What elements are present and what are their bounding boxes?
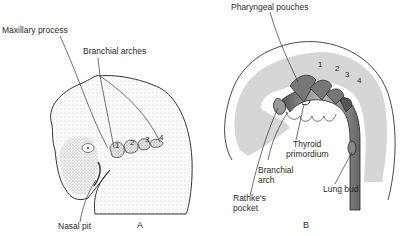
label-rathkes-line1: Rathke's	[233, 193, 266, 203]
leader-lung-bud	[335, 152, 352, 184]
pouch-number-2: 2	[335, 64, 339, 73]
pericardium-scallop	[286, 112, 336, 121]
arch-number-3: 3	[145, 135, 149, 144]
label-branchial-arch-line1: Branchial	[258, 165, 293, 175]
panel-b-section	[225, 12, 395, 210]
label-thyroid-line1: Thyroid	[293, 139, 321, 149]
lung-bud-shape	[348, 141, 356, 155]
label-maxillary-process: Maxillary process	[2, 25, 68, 35]
panel-letter-a: A	[137, 220, 143, 230]
panel-a-embryo	[51, 36, 193, 222]
label-thyroid-line2: primordium	[286, 149, 329, 159]
pouch-number-4: 4	[357, 76, 361, 85]
label-pharyngeal-pouches: Pharyngeal pouches	[231, 2, 309, 12]
pouch-number-1: 1	[318, 60, 322, 69]
panel-letter-b: B	[303, 220, 309, 230]
arch-number-4: 4	[159, 133, 163, 142]
label-rathkes-line2: pocket	[233, 203, 258, 213]
label-branchial-arch-line2: arch	[258, 175, 275, 185]
leader-thyroid	[296, 104, 304, 140]
label-nasal-pit: Nasal pit	[58, 221, 91, 231]
arch-number-2: 2	[130, 138, 134, 147]
label-branchial-arches: Branchial arches	[83, 46, 146, 56]
neural-tube-gray	[234, 52, 387, 182]
embryo-diagram	[0, 0, 401, 236]
arch-number-1: 1	[115, 141, 119, 150]
label-lung-bud: Lung bud	[323, 184, 358, 194]
pouch-number-3: 3	[345, 70, 349, 79]
